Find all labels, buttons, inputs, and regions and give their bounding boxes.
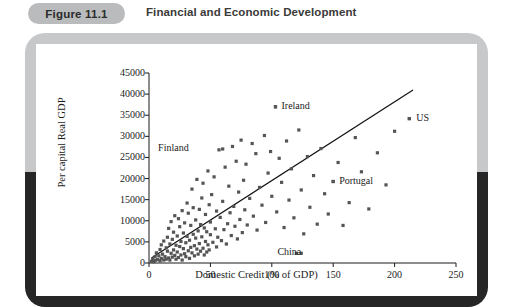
annotation-ireland: Ireland	[281, 100, 309, 111]
figure-number-label: Figure 11.1	[45, 8, 107, 20]
x-tick-label: 0	[129, 269, 169, 280]
y-tick-label: 15000	[91, 194, 145, 205]
chart-card: Per capital Real GDP Domestic Credit (% …	[36, 44, 477, 296]
y-tick-label: 5000	[91, 236, 145, 247]
x-tick-label: 150	[313, 269, 353, 280]
y-tick-label: 40000	[91, 88, 145, 99]
figure-title: Financial and Economic Development	[146, 6, 356, 18]
y-tick-label: 10000	[91, 215, 145, 226]
y-tick-label: 45000	[91, 67, 145, 78]
y-tick-label: 35000	[91, 109, 145, 120]
figure-root: Figure 11.1 Financial and Economic Devel…	[0, 0, 513, 307]
annotation-finland: Finland	[149, 142, 189, 153]
scatter-plot: Per capital Real GDP Domestic Credit (% …	[36, 44, 477, 296]
y-axis-title: Per capital Real GDP	[56, 58, 67, 228]
x-tick-label: 200	[375, 269, 415, 280]
y-tick-label: 0	[91, 257, 145, 268]
annotation-china: China	[261, 246, 301, 257]
y-tick-label: 30000	[91, 130, 145, 141]
figure-header: Figure 11.1 Financial and Economic Devel…	[0, 0, 513, 30]
x-tick-label: 250	[436, 269, 476, 280]
figure-number-badge: Figure 11.1	[28, 3, 125, 24]
y-tick-label: 20000	[91, 173, 145, 184]
annotation-portugal: Portugal	[339, 175, 373, 186]
figure-frame: Per capital Real GDP Domestic Credit (% …	[25, 33, 488, 307]
y-tick-label: 25000	[91, 151, 145, 162]
x-tick-label: 50	[190, 269, 230, 280]
annotation-us: US	[416, 112, 429, 123]
x-tick-label: 100	[252, 269, 292, 280]
